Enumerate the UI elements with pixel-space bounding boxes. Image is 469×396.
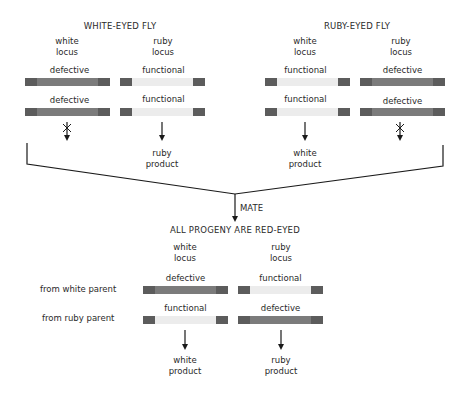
ruby-locus-label: ruby locus (251, 242, 311, 263)
blocked-arrow-icon (396, 122, 404, 141)
defective-allele-bar (360, 108, 445, 116)
functional-allele-bar (238, 286, 323, 294)
allele-label: defective (27, 65, 112, 76)
ruby-locus-label: ruby locus (371, 36, 431, 57)
functional-allele-bar (120, 78, 205, 86)
arrow-down-icon (302, 122, 308, 141)
ruby-product-label: ruby product (249, 355, 313, 376)
progeny-title: ALL PROGENY ARE RED-EYED (160, 225, 310, 236)
white-eyed-fly-title: WHITE-EYED FLY (60, 21, 180, 32)
white-locus-label: white locus (37, 36, 97, 57)
defective-allele-bar (238, 316, 323, 324)
row-label-white-parent: from white parent (40, 284, 140, 295)
defective-allele-bar (143, 286, 228, 294)
defective-allele-bar (25, 108, 110, 116)
ruby-locus-label: ruby locus (133, 36, 193, 57)
mate-label: MATE (240, 203, 280, 214)
allele-label: functional (263, 94, 348, 105)
allele-label: functional (121, 65, 206, 76)
ruby-eyed-fly-title: RUBY-EYED FLY (297, 21, 417, 32)
allele-label: functional (263, 65, 348, 76)
allele-label: functional (143, 303, 228, 314)
white-product-label: white product (153, 355, 217, 376)
allele-label: defective (27, 95, 112, 106)
functional-allele-bar (120, 108, 205, 116)
connector-lines (0, 0, 469, 396)
white-locus-label: white locus (275, 36, 335, 57)
allele-label: functional (121, 94, 206, 105)
allele-label: defective (360, 96, 445, 107)
blocked-arrow-icon (63, 122, 71, 141)
arrow-down-icon (182, 330, 188, 350)
functional-allele-bar (265, 78, 350, 86)
functional-allele-bar (265, 108, 350, 116)
white-locus-label: white locus (155, 242, 215, 263)
row-label-ruby-parent: from ruby parent (42, 313, 142, 324)
white-product-label: white product (273, 148, 337, 169)
ruby-product-label: ruby product (130, 148, 194, 169)
allele-label: defective (143, 273, 228, 284)
defective-allele-bar (360, 78, 445, 86)
arrow-down-icon (278, 330, 284, 350)
defective-allele-bar (25, 78, 110, 86)
mating-bracket (27, 143, 443, 222)
functional-allele-bar (143, 316, 228, 324)
arrow-down-icon (159, 122, 165, 141)
allele-label: functional (238, 273, 323, 284)
allele-label: defective (238, 303, 323, 314)
allele-label: defective (360, 65, 445, 76)
